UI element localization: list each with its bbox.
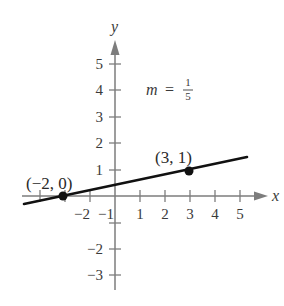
y-tick-label: 5 [96, 56, 104, 72]
point-b-label: (3, 1) [155, 148, 192, 167]
x-tick-label: 2 [161, 206, 169, 222]
y-tick-label: 3 [96, 109, 104, 125]
y-tick-label: 1 [96, 162, 104, 178]
y-tick-label: 2 [96, 135, 104, 151]
y-axis-label: y [109, 18, 119, 36]
y-tick-labels: 5 4 3 2 1 −2 −3 [87, 56, 103, 283]
x-tick-label: −2 [74, 206, 90, 222]
x-tick-label: 5 [236, 206, 244, 222]
y-tick-label: −3 [87, 267, 103, 283]
x-tick-label: −1 [98, 206, 114, 222]
y-axis-arrow-icon [111, 40, 120, 55]
y-tick-label: −2 [87, 241, 103, 257]
point-a-label: (−2, 0) [26, 174, 72, 193]
slope-equals: = [165, 81, 174, 98]
y-tick-label: 4 [96, 82, 104, 98]
slope-symbol: m [146, 81, 158, 98]
x-tick-label: 4 [211, 206, 219, 222]
point-b [185, 167, 194, 176]
x-tick-labels: −2 −1 1 2 3 4 5 [74, 206, 244, 222]
x-axis-arrow-icon [254, 192, 268, 201]
x-axis-label: x [271, 187, 279, 204]
slope-numerator: 1 [185, 76, 191, 88]
chart-canvas: −2 −1 1 2 3 4 5 5 4 3 2 1 −2 −3 x y (−2,… [0, 0, 284, 306]
slope-denominator: 5 [185, 90, 191, 102]
slope-annotation: m = 1 5 [146, 76, 193, 102]
x-tick-label: 3 [186, 206, 194, 222]
x-tick-label: 1 [136, 206, 144, 222]
axes [22, 40, 268, 290]
